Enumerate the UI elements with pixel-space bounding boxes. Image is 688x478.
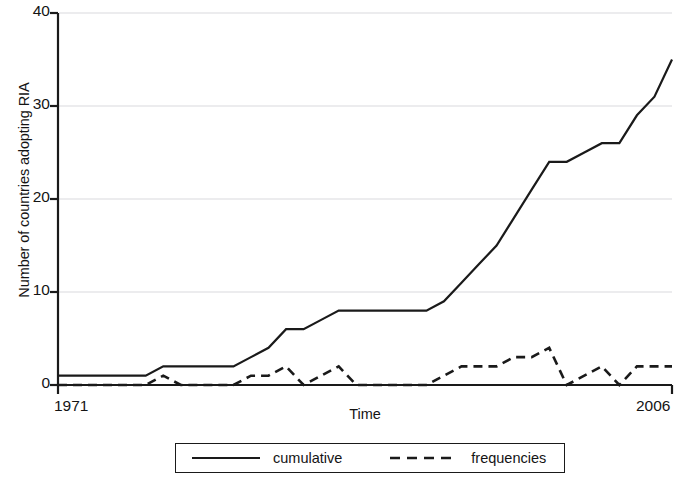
chart-figure: Number of countries adopting RIA 0102030… <box>0 0 688 478</box>
legend-label-frequencies: frequencies <box>471 450 546 466</box>
series-line-frequencies <box>58 348 672 385</box>
gridlines <box>59 13 672 292</box>
legend-item-frequencies: frequencies <box>388 444 546 472</box>
y-axis-ticks <box>50 13 58 385</box>
chart-legend: cumulative frequencies <box>175 443 565 473</box>
x-axis-title: Time <box>58 406 672 422</box>
y-axis-tick-label: 40 <box>10 2 50 20</box>
legend-swatch-solid-icon <box>190 451 262 465</box>
data-series-layer <box>58 60 672 386</box>
y-axis-tick-label: 20 <box>10 188 50 206</box>
legend-swatch-dashed-icon <box>388 451 460 465</box>
y-axis-tick-label: 10 <box>10 281 50 299</box>
legend-item-cumulative: cumulative <box>190 444 342 472</box>
legend-label-cumulative: cumulative <box>273 450 342 466</box>
y-axis-tick-label: 30 <box>10 95 50 113</box>
y-axis-tick-label: 0 <box>10 374 50 392</box>
series-line-cumulative <box>58 60 672 376</box>
x-axis-ticks <box>58 385 672 394</box>
